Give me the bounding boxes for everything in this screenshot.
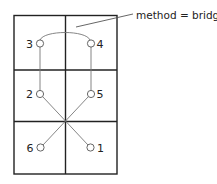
node-1 xyxy=(87,144,94,151)
node-label-6: 6 xyxy=(27,142,34,155)
annotation: method = bridge xyxy=(76,9,217,28)
node-4 xyxy=(87,40,94,47)
node-3 xyxy=(36,40,43,47)
node-6 xyxy=(37,144,44,151)
node-label-2: 2 xyxy=(26,88,33,101)
node-label-3: 3 xyxy=(26,38,33,51)
node-2 xyxy=(36,90,43,97)
node-label-1: 1 xyxy=(97,142,104,155)
node-label-4: 4 xyxy=(97,38,104,51)
node-label-5: 5 xyxy=(97,88,104,101)
bridge-diagram: 3 4 2 5 6 1 method = bridge xyxy=(0,0,217,184)
annotation-text: method = bridge xyxy=(136,9,217,21)
node-5 xyxy=(87,90,94,97)
